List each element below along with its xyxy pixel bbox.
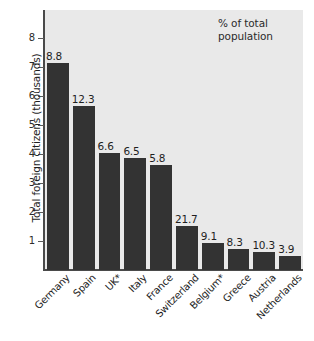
bar-value-label: 6.6 [98, 140, 114, 152]
bar-value-label: 12.3 [72, 93, 95, 105]
bar[interactable] [124, 158, 146, 270]
bar[interactable] [202, 243, 224, 270]
bar-value-label: 3.9 [278, 243, 294, 255]
x-tick-label: Netherlands [155, 272, 304, 341]
bar[interactable] [47, 63, 69, 270]
bar[interactable] [176, 226, 198, 270]
bar[interactable] [99, 153, 121, 270]
bar-value-label: 5.8 [149, 152, 165, 164]
bar-slot[interactable]: 12.3 [71, 10, 97, 270]
bar[interactable] [73, 106, 95, 270]
x-tick-label: France [26, 272, 175, 341]
bar-slot[interactable]: 10.3 [251, 10, 277, 270]
bar-slot[interactable]: 21.7 [174, 10, 200, 270]
x-tick-label: Switzerland [51, 272, 200, 341]
bar-series: 8.812.36.66.55.821.79.18.310.33.9 [45, 10, 303, 270]
bar-value-label: 10.3 [252, 239, 275, 251]
bar-chart-figure: 12345678 Total foreign citizens (thousan… [0, 0, 314, 341]
bar-slot[interactable]: 3.9 [277, 10, 303, 270]
x-axis-tick-labels: GermanySpainUK*ItalyFranceSwitzerlandBel… [45, 272, 303, 340]
x-tick-label: Austria [129, 272, 278, 341]
y-axis-title: Total foreign citizens (thousands) [30, 18, 42, 258]
bar-value-label: 8.3 [227, 236, 243, 248]
bar-slot[interactable]: 6.5 [122, 10, 148, 270]
bar-slot[interactable]: 5.8 [148, 10, 174, 270]
bar-value-label: 21.7 [175, 213, 198, 225]
bar-value-label: 6.5 [123, 145, 139, 157]
bar-slot[interactable]: 9.1 [200, 10, 226, 270]
bar-slot[interactable]: 6.6 [97, 10, 123, 270]
bar[interactable] [253, 252, 275, 270]
x-tick-label: Italy [0, 272, 149, 341]
bar-slot[interactable]: 8.8 [45, 10, 71, 270]
bar-value-label: 8.8 [46, 50, 62, 62]
bar[interactable] [279, 256, 301, 270]
x-tick-label: Belgium* [77, 272, 226, 341]
bar-value-label: 9.1 [201, 230, 217, 242]
bar[interactable] [228, 249, 250, 270]
bar-slot[interactable]: 8.3 [226, 10, 252, 270]
bar[interactable] [150, 165, 172, 270]
x-tick-label: Greece [103, 272, 252, 341]
